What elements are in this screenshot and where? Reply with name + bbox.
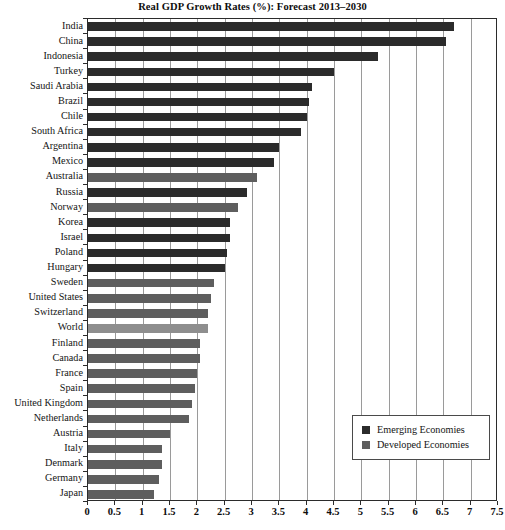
y-axis-label-australia: Australia (0, 170, 83, 181)
bar-row (88, 79, 496, 94)
bar-row (88, 170, 496, 185)
x-axis-tick (87, 501, 88, 505)
x-axis-tick (142, 501, 143, 505)
y-axis-tick (83, 365, 87, 366)
x-axis-tick (360, 501, 361, 505)
y-axis-tick (83, 214, 87, 215)
y-axis-label-saudi-arabia: Saudi Arabia (0, 80, 83, 91)
y-axis-label-germany: Germany (0, 472, 83, 483)
bar-norway (88, 203, 238, 212)
x-axis-tick (388, 501, 389, 505)
bar-united-states (88, 294, 211, 303)
y-axis-label-finland: Finland (0, 337, 83, 348)
y-axis-tick (83, 229, 87, 230)
bar-row (88, 321, 496, 336)
y-axis-tick (83, 305, 87, 306)
bar-netherlands (88, 415, 189, 424)
y-axis-label-chile: Chile (0, 110, 83, 121)
y-axis-tick (83, 154, 87, 155)
y-axis-tick (83, 33, 87, 34)
x-axis-tick (470, 501, 471, 505)
y-axis-tick (83, 410, 87, 411)
bar-row (88, 306, 496, 321)
y-axis-tick (83, 63, 87, 64)
bar-chile (88, 113, 307, 122)
bar-sweden (88, 279, 214, 288)
y-axis-label-argentina: Argentina (0, 140, 83, 151)
y-axis-label-russia: Russia (0, 186, 83, 197)
bar-argentina (88, 143, 279, 152)
chart-legend: Emerging Economies Developed Economies (352, 415, 490, 460)
bar-row (88, 230, 496, 245)
x-axis-tick (251, 501, 252, 505)
bar-row (88, 351, 496, 366)
y-axis-label-hungary: Hungary (0, 261, 83, 272)
bar-row (88, 200, 496, 215)
y-axis-label-poland: Poland (0, 246, 83, 257)
bar-row (88, 94, 496, 109)
bar-india (88, 22, 454, 31)
y-axis-tick (83, 139, 87, 140)
y-axis-tick (83, 48, 87, 49)
legend-item-developed[interactable]: Developed Economies (353, 437, 489, 452)
bar-row (88, 245, 496, 260)
bar-italy (88, 445, 162, 454)
y-axis-tick (83, 199, 87, 200)
x-axis-tick (169, 501, 170, 505)
legend-item-emerging[interactable]: Emerging Economies (353, 422, 489, 437)
y-axis-tick (83, 335, 87, 336)
bar-indonesia (88, 52, 378, 61)
y-axis-label-sweden: Sweden (0, 276, 83, 287)
bar-south-africa (88, 128, 301, 137)
bar-row (88, 381, 496, 396)
y-axis-tick (83, 320, 87, 321)
chart-title: Real GDP Growth Rates (%): Forecast 2013… (0, 1, 505, 12)
bar-world (88, 324, 208, 333)
legend-swatch-icon-developed (362, 441, 370, 449)
y-axis-tick (83, 275, 87, 276)
bar-row (88, 291, 496, 306)
y-axis-label-united-states: United States (0, 291, 83, 302)
bar-spain (88, 384, 195, 393)
bar-poland (88, 249, 227, 258)
y-axis-label-south-africa: South Africa (0, 125, 83, 136)
x-axis-tick (497, 501, 498, 505)
x-axis-tick (224, 501, 225, 505)
bar-row (88, 64, 496, 79)
bar-row (88, 261, 496, 276)
y-axis-label-indonesia: Indonesia (0, 50, 83, 61)
bar-mexico (88, 158, 274, 167)
y-axis-tick (83, 78, 87, 79)
y-axis-label-turkey: Turkey (0, 65, 83, 76)
y-axis-tick (83, 395, 87, 396)
bar-row (88, 396, 496, 411)
y-axis-tick (83, 380, 87, 381)
bar-row (88, 185, 496, 200)
y-axis-label-netherlands: Netherlands (0, 412, 83, 423)
y-axis-tick (83, 260, 87, 261)
y-axis-tick (83, 426, 87, 427)
bar-israel (88, 234, 230, 243)
x-axis-label-7-5: 7.5 (477, 506, 505, 517)
gdp-growth-bar-chart: Real GDP Growth Rates (%): Forecast 2013… (0, 0, 505, 530)
y-axis-tick (83, 441, 87, 442)
bar-row (88, 110, 496, 125)
y-axis-tick (83, 350, 87, 351)
bar-canada (88, 354, 200, 363)
y-axis-tick (83, 169, 87, 170)
bar-united-kingdom (88, 400, 192, 409)
bar-korea (88, 218, 230, 227)
bar-france (88, 369, 197, 378)
bar-turkey (88, 68, 334, 77)
y-axis-label-india: India (0, 20, 83, 31)
y-axis-label-spain: Spain (0, 382, 83, 393)
y-axis-tick (83, 18, 87, 19)
bar-brazil (88, 98, 309, 107)
bar-row (88, 155, 496, 170)
y-axis-tick (83, 184, 87, 185)
y-axis-label-canada: Canada (0, 352, 83, 363)
bar-row (88, 366, 496, 381)
y-axis-label-japan: Japan (0, 487, 83, 498)
y-axis-label-israel: Israel (0, 231, 83, 242)
y-axis-tick (83, 290, 87, 291)
